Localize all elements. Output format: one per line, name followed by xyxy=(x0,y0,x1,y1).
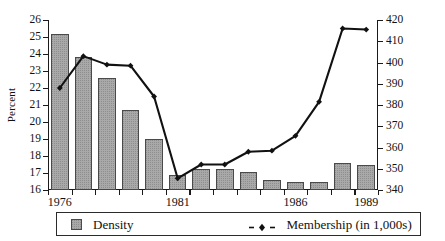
right-tick-label: 360 xyxy=(386,142,403,154)
right-tick-label: 370 xyxy=(386,120,403,132)
right-tick-label: 410 xyxy=(386,35,403,47)
right-tick-mark xyxy=(378,126,383,127)
left-tick-label: 26 xyxy=(30,14,42,26)
left-tick-label: 18 xyxy=(30,150,42,162)
x-tick-mark xyxy=(213,190,214,195)
right-tick-mark xyxy=(378,41,383,42)
left-tick-label: 21 xyxy=(30,99,42,111)
right-tick-label: 390 xyxy=(386,78,403,90)
right-tick-label: 380 xyxy=(386,99,403,111)
right-tick-label: 420 xyxy=(386,14,403,26)
line-series-membership xyxy=(48,20,378,190)
membership-marker xyxy=(104,62,110,68)
x-tick-mark xyxy=(95,190,96,195)
legend-item-density[interactable]: Density xyxy=(71,218,133,231)
left-tick-label: 16 xyxy=(30,184,42,196)
left-tick-label: 23 xyxy=(30,65,42,77)
left-tick-label: 25 xyxy=(30,31,42,43)
x-tick-mark xyxy=(331,190,332,195)
left-tick-label: 20 xyxy=(30,116,42,128)
x-tick-label: 1989 xyxy=(354,196,378,208)
legend-label-density: Density xyxy=(93,218,133,231)
y-axis-label-left-text: Percent xyxy=(5,88,17,122)
plot-area: 1617181920212223242526 34035036037038039… xyxy=(48,20,378,190)
density-bar-swatch-icon xyxy=(71,219,82,230)
chart-legend: Density Membership (in 1,000s) xyxy=(56,212,421,236)
right-tick-mark xyxy=(378,20,383,21)
membership-line-swatch-icon xyxy=(249,219,275,230)
right-tick-label: 340 xyxy=(386,184,403,196)
right-tick-mark xyxy=(378,105,383,106)
left-tick-label: 19 xyxy=(30,133,42,145)
y-axis-label-left: Percent xyxy=(4,50,18,160)
x-tick-label: 1981 xyxy=(166,196,190,208)
membership-marker xyxy=(363,27,369,33)
right-tick-mark xyxy=(378,169,383,170)
left-tick-label: 17 xyxy=(30,167,42,179)
x-tick-mark xyxy=(260,190,261,195)
right-tick-label: 400 xyxy=(386,57,403,69)
chart-container: Percent 1617181920212223242526 340350360… xyxy=(0,0,445,241)
membership-marker xyxy=(340,26,346,32)
right-tick-mark xyxy=(378,63,383,64)
right-tick-label: 350 xyxy=(386,163,403,175)
x-tick-label: 1986 xyxy=(284,196,308,208)
left-tick-label: 24 xyxy=(30,48,42,60)
x-tick-mark xyxy=(119,190,120,195)
right-tick-mark xyxy=(378,148,383,149)
legend-label-membership: Membership (in 1,000s) xyxy=(286,218,411,231)
x-tick-mark xyxy=(142,190,143,195)
left-tick-label: 22 xyxy=(30,82,42,94)
x-tick-label: 1976 xyxy=(48,196,72,208)
x-tick-mark xyxy=(237,190,238,195)
right-tick-mark xyxy=(378,84,383,85)
legend-item-membership[interactable]: Membership (in 1,000s) xyxy=(249,218,411,231)
